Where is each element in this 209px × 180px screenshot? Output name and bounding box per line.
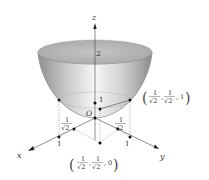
z-axis-arrow-icon xyxy=(93,23,96,29)
svg-text:,: , xyxy=(176,93,178,101)
z-axis-label: z xyxy=(91,13,97,22)
svg-text:1: 1 xyxy=(81,155,85,163)
upper-point-label: ( 1 √2 , 1 √2 , 1 ) xyxy=(142,89,190,106)
dot-x-one xyxy=(58,136,61,139)
svg-text:1: 1 xyxy=(180,93,184,101)
y-half-label: 1 √2 xyxy=(115,116,126,132)
svg-text:√2: √2 xyxy=(92,163,100,171)
svg-text:√2: √2 xyxy=(77,163,85,171)
dot-z-one xyxy=(94,102,97,105)
svg-text:√2: √2 xyxy=(149,97,157,105)
x-axis xyxy=(32,118,95,149)
paraboloid-diagram: z x y 2 1 O 1 1 1 √2 xyxy=(0,0,209,180)
dot-upper-point xyxy=(99,108,102,111)
height-label: 2 xyxy=(96,49,101,58)
svg-text:√2: √2 xyxy=(61,124,69,132)
svg-text:1: 1 xyxy=(119,116,123,124)
dot-base-point xyxy=(99,142,102,145)
z-one-label: 1 xyxy=(99,96,103,104)
svg-text:√2: √2 xyxy=(164,97,172,105)
dot-bowl-right xyxy=(129,99,132,102)
y-one-label: 1 xyxy=(125,140,129,148)
svg-text:1: 1 xyxy=(96,155,100,163)
svg-text:0: 0 xyxy=(108,159,112,167)
dot-x-half xyxy=(73,128,76,131)
x-axis-label: x xyxy=(17,151,22,160)
dot-y-one xyxy=(129,136,132,139)
svg-text:): ) xyxy=(113,157,118,173)
svg-text:,: , xyxy=(89,159,91,167)
svg-text:): ) xyxy=(185,90,190,106)
origin-label: O xyxy=(86,109,92,118)
x-half-label: 1 √2 xyxy=(61,116,72,132)
base-point-label: ( 1 √2 , 1 √2 , 0 ) xyxy=(69,155,118,173)
svg-text:1: 1 xyxy=(168,89,172,97)
y-axis-arrow-icon xyxy=(154,145,160,150)
x-axis-arrow-icon xyxy=(28,146,35,151)
svg-text:1: 1 xyxy=(153,89,157,97)
svg-text:,: , xyxy=(161,93,163,101)
svg-text:(: ( xyxy=(69,157,74,173)
svg-text:,: , xyxy=(104,159,106,167)
svg-text:√2: √2 xyxy=(115,124,123,132)
x-one-label: 1 xyxy=(57,140,61,148)
y-axis-label: y xyxy=(159,152,165,161)
svg-text:1: 1 xyxy=(65,116,69,124)
svg-text:(: ( xyxy=(142,90,147,106)
dot-origin xyxy=(94,117,97,120)
dot-bowl-left xyxy=(58,99,61,102)
